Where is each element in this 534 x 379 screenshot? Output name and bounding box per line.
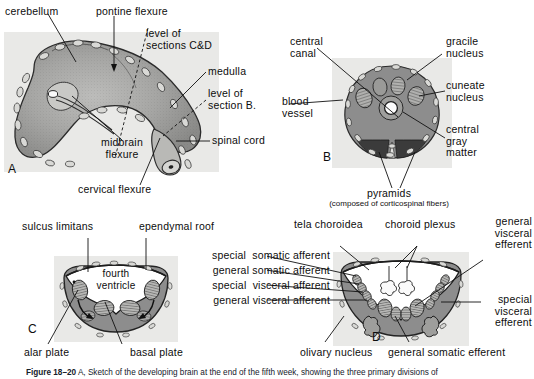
- label-sulcus-limitans: sulcus limitans: [22, 221, 93, 233]
- leader-choroid-plexus-1: [395, 246, 417, 268]
- leader-gracile-nucleus: [407, 54, 442, 80]
- figure-caption-text: A, Sketch of the developing brain at the…: [76, 368, 438, 377]
- leader-alar-plate: [48, 290, 78, 344]
- leader-choroid-plexus-2: [407, 246, 417, 268]
- label-special-visceral-afferent: special visceral afferent: [196, 280, 330, 292]
- label-tela-choroidea: tela choroidea: [294, 219, 363, 231]
- label-spinal-cord: spinal cord: [212, 135, 265, 147]
- panel-letter-a: A: [8, 162, 16, 176]
- label-choroid-plexus: choroid plexus: [385, 219, 456, 231]
- leader-pyramid-right: [400, 152, 415, 188]
- label-cervical-flexure: cervical flexure: [78, 184, 151, 196]
- label-general-visceral-efferent: general visceral efferent: [474, 216, 532, 251]
- figure-18-20: cerebellum pontine flexure level of sect…: [0, 0, 534, 379]
- leader-tela-choroidea: [340, 246, 369, 270]
- label-blood-vessel: blood vessel: [282, 96, 313, 119]
- leader-midbrain-flexure: [72, 96, 122, 140]
- label-central-gray-matter: central gray matter: [446, 124, 479, 159]
- label-pyramids: pyramids: [349, 188, 429, 200]
- label-level-of-section-b: level of section B.: [208, 88, 256, 111]
- leader-gse: [395, 316, 409, 342]
- label-alar-plate: alar plate: [24, 347, 69, 359]
- label-medulla: medulla: [208, 66, 246, 78]
- label-fourth-ventricle: fourth ventricle: [85, 268, 147, 291]
- panel-letter-d: D: [372, 330, 381, 344]
- label-general-somatic-afferent: general somatic afferent: [196, 265, 330, 277]
- leader-section-b: [163, 100, 206, 136]
- leader-olivary-nucleus: [325, 316, 344, 342]
- leader-cerebellum: [48, 14, 76, 62]
- label-cerebellum: cerebellum: [5, 6, 58, 18]
- label-special-somatic-afferent: special somatic afferent: [196, 250, 330, 262]
- leader-central-gray-matter: [403, 112, 445, 138]
- label-pontine-flexure: pontine flexure: [96, 6, 168, 18]
- label-central-canal: central canal: [290, 36, 323, 59]
- label-cuneate-nucleus: cuneate nucleus: [446, 80, 485, 103]
- label-general-somatic-efferent: general somatic efferent: [388, 347, 505, 359]
- panel-letter-c: C: [28, 322, 37, 336]
- label-olivary-nucleus: olivary nucleus: [300, 347, 372, 359]
- figure-caption-number: Figure 18–20: [26, 368, 76, 377]
- label-basal-plate: basal plate: [130, 347, 183, 359]
- label-ependymal-roof: ependymal roof: [139, 221, 214, 233]
- label-level-of-sections-cd: level of sections C&D: [146, 28, 212, 51]
- label-gracile-nucleus: gracile nucleus: [446, 36, 484, 59]
- label-general-visceral-afferent: general visceral afferent: [196, 295, 330, 307]
- panel-letter-b: B: [323, 150, 331, 164]
- label-pyramids-note: (composed of corticospinal fibers): [309, 199, 469, 208]
- leader-medulla: [170, 72, 206, 108]
- label-special-visceral-efferent: special visceral efferent: [474, 294, 532, 329]
- label-midbrain-flexure: midbrain flexure: [78, 137, 166, 160]
- leader-central-canal: [317, 48, 398, 117]
- leader-cuneate-nucleus: [419, 91, 445, 96]
- leader-gve: [415, 260, 483, 306]
- figure-caption: Figure 18–20 A, Sketch of the developing…: [26, 368, 534, 377]
- leader-pyramid-left: [379, 152, 392, 188]
- arrowhead-pontine: [111, 64, 117, 72]
- leader-basal-plate: [105, 302, 122, 344]
